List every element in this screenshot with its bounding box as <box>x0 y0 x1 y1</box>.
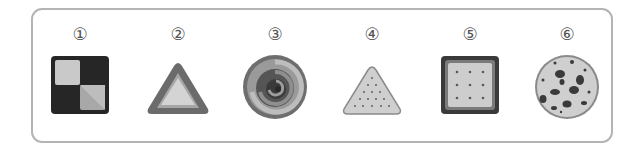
item-number: ② <box>138 24 218 44</box>
item-3: ③ <box>235 0 315 147</box>
checkered-square-icon <box>40 55 120 127</box>
item-number: ⑤ <box>430 24 510 44</box>
item-4: ④ <box>332 0 412 147</box>
triangle-cracker-icon <box>332 55 412 127</box>
item-6: ⑥ <box>527 0 607 147</box>
item-number: ③ <box>235 24 315 44</box>
swirl-candy-icon <box>235 55 315 127</box>
item-number: ⑥ <box>527 24 607 44</box>
item-number: ④ <box>332 24 412 44</box>
item-1: ① <box>40 0 120 147</box>
rimmed-triangle-icon <box>138 55 218 127</box>
square-cracker-icon <box>430 55 510 127</box>
chocolate-chip-cookie-icon <box>527 55 607 127</box>
item-2: ② <box>138 0 218 147</box>
item-number: ① <box>40 24 120 44</box>
item-5: ⑤ <box>430 0 510 147</box>
